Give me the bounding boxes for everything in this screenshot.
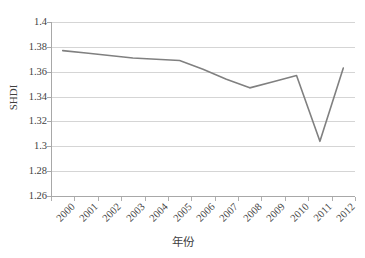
shdi-line-chart: 1.41.381.361.341.321.31.281.26 SHDI 2000… xyxy=(0,0,365,258)
x-axis-title: 年份 xyxy=(0,236,365,248)
x-axis-tick-label: 2011 xyxy=(305,201,334,230)
x-axis-tick-label: 2009 xyxy=(258,201,287,230)
x-axis-tick-label: 2006 xyxy=(188,201,217,230)
x-axis-tick-label: 2002 xyxy=(94,201,123,230)
x-axis-tick-label: 2012 xyxy=(328,201,357,230)
x-axis-tick-label: 2000 xyxy=(47,201,76,230)
y-axis-tick-mark xyxy=(47,72,51,73)
x-axis-tick-label: 2003 xyxy=(118,201,147,230)
x-axis-tick-labels: 2000200120022003200420052006200720082009… xyxy=(51,201,355,235)
x-axis-tick-mark xyxy=(355,197,356,201)
y-axis-tick-mark xyxy=(47,97,51,98)
y-axis-tick-mark xyxy=(47,146,51,147)
x-axis-tick-label: 2004 xyxy=(141,201,170,230)
x-axis-tick-label: 2007 xyxy=(211,201,240,230)
x-axis-tick-label: 2010 xyxy=(281,201,310,230)
x-axis-tick-label: 2001 xyxy=(71,201,100,230)
x-axis-tick-label: 2008 xyxy=(235,201,264,230)
y-axis-tick-mark xyxy=(47,22,51,23)
x-axis-tick-label: 2005 xyxy=(164,201,193,230)
y-axis-tick-mark xyxy=(47,171,51,172)
y-axis-tick-mark xyxy=(47,47,51,48)
y-axis-tick-mark xyxy=(47,121,51,122)
